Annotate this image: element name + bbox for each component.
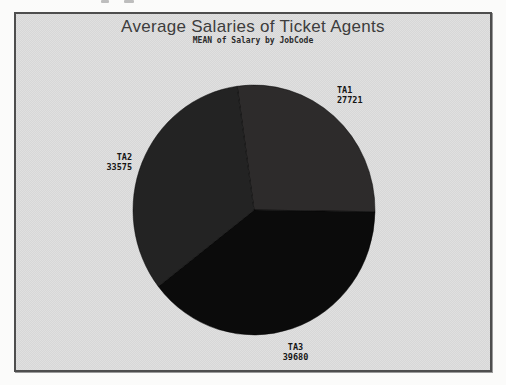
slice-label-ta2: TA233575 <box>88 153 132 172</box>
pie-chart-svg <box>0 0 506 385</box>
slice-label-ta3: TA339680 <box>263 343 328 362</box>
slice-value: 33575 <box>88 163 132 173</box>
slice-label-ta1: TA127721 <box>337 86 383 105</box>
slice-value: 39680 <box>263 353 328 363</box>
page: Average Salaries of Ticket Agents MEAN o… <box>0 0 506 385</box>
slice-value: 27721 <box>337 96 383 106</box>
